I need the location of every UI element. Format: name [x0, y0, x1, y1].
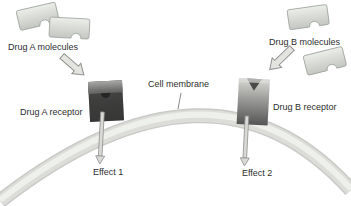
- drug-a-receptor-label: Drug A receptor: [20, 107, 83, 118]
- drug-receptor-diagram: Drug A molecules Drug A receptor Cell me…: [0, 0, 351, 206]
- drug-a-receptor-icon: [88, 80, 124, 122]
- cell-membrane-label: Cell membrane: [148, 79, 209, 90]
- effect-2-label: Effect 2: [242, 168, 272, 179]
- drug-a-arrow-icon: [58, 51, 89, 80]
- drug-b-molecules-label: Drug B molecules: [269, 37, 340, 48]
- cell-membrane-icon: [0, 115, 351, 201]
- effect-1-label: Effect 1: [93, 167, 123, 178]
- drug-b-molecule-icon: [303, 46, 347, 75]
- drug-a-molecule-icon: [49, 17, 90, 39]
- cell-membrane-pointer-line: [178, 93, 181, 109]
- drug-b-molecule-icon: [287, 4, 329, 29]
- drug-b-receptor-icon: [237, 78, 270, 126]
- drug-b-receptor-label: Drug B receptor: [273, 102, 337, 113]
- drug-a-molecules-label: Drug A molecules: [8, 42, 78, 53]
